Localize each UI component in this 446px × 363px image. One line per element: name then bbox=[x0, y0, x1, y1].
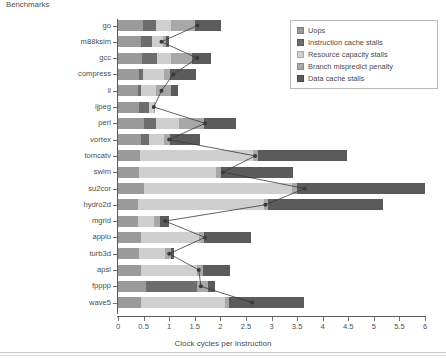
bar-segment bbox=[144, 118, 156, 129]
x-axis-tick bbox=[272, 317, 273, 321]
x-axis-tick bbox=[118, 317, 119, 321]
bar-row-vortex bbox=[0, 134, 446, 145]
bar-segment bbox=[141, 36, 152, 47]
bar-segment bbox=[118, 167, 139, 178]
bar-segment bbox=[203, 265, 230, 276]
bar-segment bbox=[118, 85, 138, 96]
bar-segment bbox=[118, 69, 139, 80]
x-axis-tick bbox=[297, 317, 298, 321]
bar-row-tomcatv bbox=[0, 150, 446, 161]
legend-item: Uops bbox=[297, 26, 431, 35]
bar-segment bbox=[118, 297, 141, 308]
x-axis-tick bbox=[169, 317, 170, 321]
bar-row-ijpeg bbox=[0, 102, 446, 113]
legend-swatch-uops-icon bbox=[297, 27, 304, 34]
bar-segment bbox=[139, 248, 165, 259]
bar-segment bbox=[118, 248, 139, 259]
legend-item: Resource capacity stalls bbox=[297, 50, 431, 59]
bar-segment bbox=[221, 167, 293, 178]
x-axis-tick bbox=[220, 317, 221, 321]
bar-segment bbox=[157, 53, 171, 64]
x-axis-tick bbox=[399, 317, 400, 321]
legend-item: Instruction cache stalls bbox=[297, 38, 431, 47]
bar-segment bbox=[297, 183, 425, 194]
bar-segment bbox=[146, 281, 197, 292]
bar-segment bbox=[156, 85, 170, 96]
bar-segment bbox=[143, 20, 156, 31]
bar-row-fpppp bbox=[0, 281, 446, 292]
bar-row-su2cor bbox=[0, 183, 446, 194]
legend-swatch-icache-icon bbox=[297, 39, 304, 46]
bar-segment bbox=[166, 36, 169, 47]
bar-segment bbox=[156, 20, 171, 31]
bar-segment bbox=[138, 199, 263, 210]
legend-item: Branch mispredict penalty bbox=[297, 62, 431, 71]
bar-segment bbox=[139, 102, 148, 113]
bar-segment bbox=[258, 150, 348, 161]
bar-segment bbox=[118, 134, 141, 145]
bar-segment bbox=[144, 183, 292, 194]
footer-divider-secondary bbox=[0, 355, 446, 356]
marker-polyline bbox=[154, 26, 305, 303]
x-axis-tick bbox=[374, 317, 375, 321]
bar-segment bbox=[118, 232, 141, 243]
x-axis-tick-label: 6 bbox=[410, 322, 440, 331]
bar-segment bbox=[171, 20, 195, 31]
bar-row-apsi bbox=[0, 265, 446, 276]
x-axis-tick bbox=[348, 317, 349, 321]
legend-label: Resource capacity stalls bbox=[308, 50, 388, 59]
legend-label: Instruction cache stalls bbox=[308, 38, 383, 47]
bar-segment bbox=[138, 216, 153, 227]
bar-segment bbox=[142, 53, 157, 64]
bar-row-swim bbox=[0, 167, 446, 178]
bar-segment bbox=[197, 281, 207, 292]
legend-swatch-branch-icon bbox=[297, 63, 304, 70]
bar-segment bbox=[118, 199, 138, 210]
legend-label: Branch mispredict penalty bbox=[308, 62, 393, 71]
bar-segment bbox=[229, 297, 304, 308]
bar-row-applu bbox=[0, 232, 446, 243]
x-axis-tick bbox=[246, 317, 247, 321]
bar-segment bbox=[204, 118, 236, 129]
bar-segment bbox=[141, 85, 156, 96]
bar-segment bbox=[141, 297, 225, 308]
bar-segment bbox=[140, 150, 253, 161]
bar-segment bbox=[139, 167, 216, 178]
legend-swatch-dcache-icon bbox=[297, 75, 304, 82]
bar-row-hydro2d bbox=[0, 199, 446, 210]
bar-segment bbox=[141, 265, 197, 276]
bar-segment bbox=[118, 20, 143, 31]
bar-segment bbox=[118, 281, 146, 292]
bar-row-perl bbox=[0, 118, 446, 129]
bar-segment bbox=[149, 134, 164, 145]
x-axis-tick bbox=[144, 317, 145, 321]
x-axis-tick bbox=[323, 317, 324, 321]
bar-row-mgrid bbox=[0, 216, 446, 227]
bar-segment bbox=[208, 281, 216, 292]
bar-segment bbox=[118, 102, 139, 113]
bar-segment bbox=[118, 216, 138, 227]
bar-segment bbox=[156, 118, 179, 129]
bar-row-wave5 bbox=[0, 297, 446, 308]
bar-segment bbox=[152, 36, 163, 47]
bar-segment bbox=[118, 150, 140, 161]
legend-label: Data cache stalls bbox=[308, 74, 364, 83]
bar-segment bbox=[160, 216, 169, 227]
bar-segment bbox=[118, 118, 144, 129]
legend-item: Data cache stalls bbox=[297, 74, 431, 83]
legend-swatch-resource-icon bbox=[297, 51, 304, 58]
bar-segment bbox=[192, 53, 211, 64]
x-axis-title: Clock cycles per instruction bbox=[0, 339, 446, 348]
bar-row-turb3d bbox=[0, 248, 446, 259]
bar-segment bbox=[179, 118, 205, 129]
x-axis-tick bbox=[425, 317, 426, 321]
cpi-breakdown-chart: Benchmarks gom88ksimgcccompressliijpegpe… bbox=[0, 0, 446, 363]
bar-segment bbox=[170, 69, 196, 80]
bar-segment bbox=[171, 248, 174, 259]
bar-segment bbox=[171, 53, 191, 64]
y-axis-title: Benchmarks bbox=[6, 0, 84, 9]
bar-segment bbox=[141, 232, 200, 243]
bar-segment bbox=[118, 36, 141, 47]
bar-segment bbox=[170, 134, 200, 145]
bar-segment bbox=[154, 102, 155, 113]
